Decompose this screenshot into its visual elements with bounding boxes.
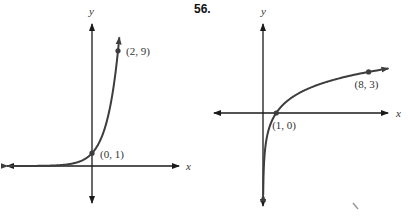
left-graph: x y (0, 1)(2, 9) (7, 5, 191, 203)
point-marker (366, 69, 371, 74)
point-marker (89, 151, 94, 156)
left-y-axis-label: y (88, 5, 94, 17)
point-label: (2, 9) (126, 45, 150, 58)
right-graph: x y (1, 0)(8, 3) (214, 5, 401, 206)
right-y-axis-label: y (260, 5, 266, 17)
point-label: (1, 0) (272, 119, 296, 132)
point-marker (274, 110, 279, 115)
problem-number: 56. (194, 2, 211, 16)
left-curve-exponential (8, 37, 120, 166)
left-x-axis-label: x (185, 160, 191, 172)
point-marker (115, 48, 120, 53)
point-label: (0, 1) (100, 148, 124, 161)
point-label: (8, 3) (355, 78, 379, 91)
figure: 56. x y (0, 1)(2, 9) x y (1, 0)(8, 3) (0, 0, 408, 216)
right-x-axis-label: x (395, 107, 401, 119)
stray-mark (353, 203, 358, 209)
